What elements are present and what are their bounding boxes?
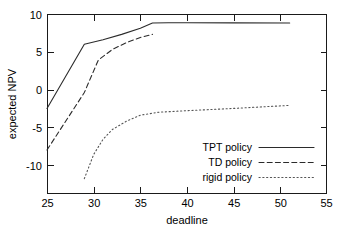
x-tick-labels: 25 30 35 40 45 50 55 bbox=[41, 197, 332, 209]
chart-legend: TPT policy TD policy rigid policy bbox=[202, 141, 314, 183]
y-axis-title: expected NPV bbox=[6, 68, 18, 139]
x-tick-label: 55 bbox=[320, 197, 332, 209]
x-tick-label: 40 bbox=[181, 197, 193, 209]
x-axis-ticks bbox=[48, 15, 327, 194]
x-tick-label: 50 bbox=[275, 197, 287, 209]
y-tick-label: 10 bbox=[30, 9, 42, 21]
x-tick-label: 25 bbox=[41, 197, 53, 209]
y-tick-label: -10 bbox=[26, 160, 42, 172]
x-tick-label: 45 bbox=[228, 197, 240, 209]
chart-figure: 10 5 0 -5 -10 25 30 35 40 45 50 55 deadl… bbox=[0, 0, 353, 237]
y-tick-label: 5 bbox=[36, 46, 42, 58]
data-series-group bbox=[47, 23, 290, 179]
chart-plot-area: 10 5 0 -5 -10 25 30 35 40 45 50 55 deadl… bbox=[0, 0, 353, 237]
series-line-td-policy bbox=[47, 34, 152, 150]
y-axis-ticks bbox=[48, 15, 327, 166]
series-line-rigid-policy bbox=[84, 105, 289, 178]
y-tick-label: -5 bbox=[32, 122, 42, 134]
series-line-tpt-policy bbox=[47, 23, 290, 109]
legend-label-tpt-policy: TPT policy bbox=[203, 141, 253, 153]
legend-label-td-policy: TD policy bbox=[208, 156, 253, 168]
y-tick-label: 0 bbox=[36, 84, 42, 96]
x-axis-title: deadline bbox=[166, 214, 208, 226]
axes-frame bbox=[48, 15, 327, 194]
x-tick-label: 35 bbox=[135, 197, 147, 209]
legend-label-rigid-policy: rigid policy bbox=[202, 171, 252, 183]
y-tick-labels: 10 5 0 -5 -10 bbox=[26, 9, 42, 172]
x-tick-label: 30 bbox=[88, 197, 100, 209]
